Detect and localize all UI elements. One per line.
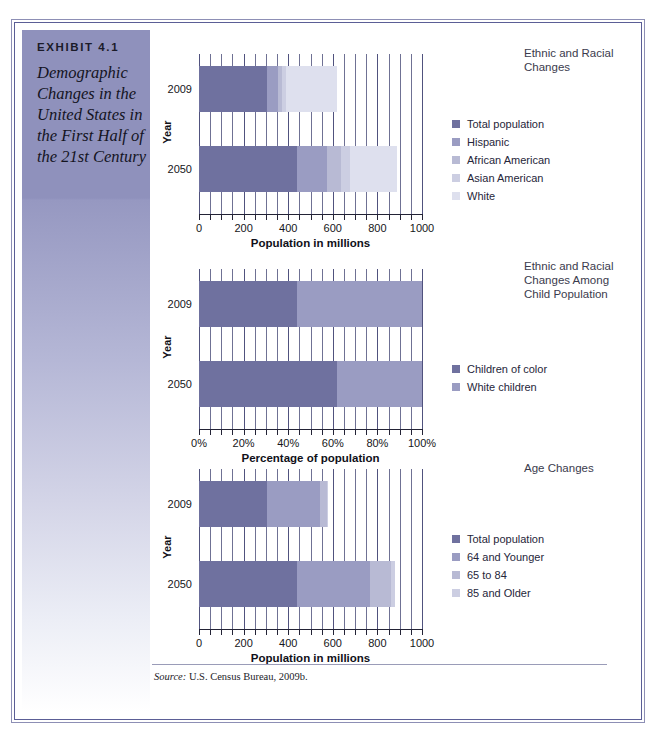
- legend-item[interactable]: African American: [452, 154, 550, 166]
- legend-item[interactable]: White children: [452, 381, 547, 393]
- bar-segment: [199, 66, 267, 112]
- x-tick-label: 40%: [277, 437, 299, 449]
- x-axis-tick: [322, 630, 323, 635]
- x-axis-tick: [411, 430, 412, 435]
- y-tick-label: 2009: [168, 83, 192, 95]
- x-axis-tick: [221, 430, 222, 435]
- x-tick-label: 800: [368, 222, 386, 234]
- chart-legend: Total populationHispanicAfrican American…: [452, 118, 550, 208]
- x-axis-tick: [333, 215, 334, 220]
- x-axis-tick: [366, 215, 367, 220]
- x-tick-label: 0: [196, 637, 202, 649]
- source-divider: [152, 664, 607, 665]
- x-tick-label: 200: [234, 222, 252, 234]
- x-axis-tick: [377, 430, 378, 435]
- x-axis-tick: [288, 215, 289, 220]
- bar-segment: [391, 561, 395, 607]
- legend-item[interactable]: Total population: [452, 533, 544, 545]
- exhibit-page: EXHIBIT 4.1 Demographic Changes in the U…: [0, 0, 656, 742]
- grid-line: [422, 269, 423, 429]
- legend-label: Total population: [467, 118, 544, 130]
- x-axis-tick: [277, 430, 278, 435]
- legend-swatch-icon: [452, 553, 460, 561]
- x-axis-tick: [232, 215, 233, 220]
- legend-label: White children: [467, 381, 537, 393]
- x-axis-title: Population in millions: [199, 237, 422, 249]
- x-axis-tick: [199, 215, 200, 220]
- x-axis-tick: [366, 630, 367, 635]
- x-axis-tick: [255, 215, 256, 220]
- x-axis-tick: [344, 430, 345, 435]
- x-axis-tick: [377, 630, 378, 635]
- chart-heading: Age Changes: [524, 461, 636, 475]
- legend-item[interactable]: 65 to 84: [452, 569, 544, 581]
- x-axis-tick: [311, 430, 312, 435]
- bar-segment: [297, 561, 371, 607]
- bar-row: [199, 281, 422, 327]
- x-axis-tick: [277, 215, 278, 220]
- x-tick-label: 600: [324, 222, 342, 234]
- legend-swatch-icon: [452, 365, 460, 373]
- x-tick-label: 20%: [233, 437, 255, 449]
- x-axis-tick: [311, 215, 312, 220]
- x-axis-tick: [322, 215, 323, 220]
- x-tick-label: 60%: [322, 437, 344, 449]
- x-axis-tick: [333, 630, 334, 635]
- bar-segment: [286, 66, 338, 112]
- x-axis-tick: [400, 215, 401, 220]
- x-axis-tick: [199, 630, 200, 635]
- source-prefix: Source:: [154, 671, 186, 682]
- legend-item[interactable]: Hispanic: [452, 136, 550, 148]
- x-axis-tick: [389, 215, 390, 220]
- x-axis-tick: [355, 215, 356, 220]
- legend-item[interactable]: Asian American: [452, 172, 550, 184]
- legend-label: White: [467, 190, 495, 202]
- plot-area: 2009205002004006008001000Population in m…: [199, 54, 422, 214]
- legend-label: 64 and Younger: [467, 551, 544, 563]
- x-axis-tick: [333, 430, 334, 435]
- plot-area: 2009205002004006008001000Population in m…: [199, 469, 422, 629]
- legend-item[interactable]: White: [452, 190, 550, 202]
- legend-swatch-icon: [452, 535, 460, 543]
- x-axis-tick: [210, 430, 211, 435]
- bar-segment: [267, 481, 319, 527]
- x-axis-tick: [277, 630, 278, 635]
- x-axis-tick: [299, 215, 300, 220]
- x-axis-tick: [288, 630, 289, 635]
- legend-swatch-icon: [452, 192, 460, 200]
- bar-segment: [297, 281, 422, 327]
- legend-label: 85 and Older: [467, 587, 531, 599]
- y-tick-label: 2050: [168, 163, 192, 175]
- bar-segment: [320, 481, 327, 527]
- legend-item[interactable]: 85 and Older: [452, 587, 544, 599]
- x-axis-tick: [344, 215, 345, 220]
- x-tick-label: 1000: [410, 222, 434, 234]
- bar-segment: [327, 481, 328, 527]
- chart-heading: Ethnic and Racial Changes: [524, 46, 636, 74]
- x-axis-tick: [288, 430, 289, 435]
- x-axis-tick: [344, 630, 345, 635]
- x-axis-tick: [255, 630, 256, 635]
- bar-segment: [327, 146, 341, 192]
- x-tick-label: 600: [324, 637, 342, 649]
- x-axis-tick: [400, 430, 401, 435]
- legend-label: 65 to 84: [467, 569, 507, 581]
- legend-label: African American: [467, 154, 550, 166]
- legend-item[interactable]: Children of color: [452, 363, 547, 375]
- legend-item[interactable]: 64 and Younger: [452, 551, 544, 563]
- x-axis-tick: [266, 430, 267, 435]
- legend-item[interactable]: Total population: [452, 118, 550, 130]
- y-tick-label: 2009: [168, 298, 192, 310]
- x-axis-tick: [244, 630, 245, 635]
- x-axis-tick: [366, 430, 367, 435]
- source-value: U.S. Census Bureau, 2009b.: [189, 671, 308, 682]
- x-tick-label: 200: [234, 637, 252, 649]
- x-axis-tick: [210, 215, 211, 220]
- y-axis-title: Year: [161, 327, 173, 367]
- bar-segment: [341, 146, 350, 192]
- x-axis-tick: [422, 630, 423, 635]
- x-axis-tick: [322, 430, 323, 435]
- y-axis-title: Year: [161, 527, 173, 567]
- x-tick-label: 100%: [408, 437, 436, 449]
- chart-legend: Children of colorWhite children: [452, 363, 547, 399]
